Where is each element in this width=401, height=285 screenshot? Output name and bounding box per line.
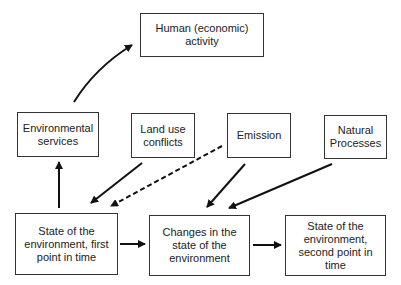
node-label: State of the environment, second point i… bbox=[288, 220, 383, 272]
node-emission: Emission bbox=[227, 113, 291, 158]
node-state-first: State of the environment, first point in… bbox=[15, 213, 118, 275]
node-label: Human (economic) activity bbox=[143, 22, 261, 48]
node-changes: Changes in the state of the environment bbox=[149, 215, 250, 276]
node-land-use-conflicts: Land use conflicts bbox=[131, 113, 195, 158]
node-label: Land use conflicts bbox=[134, 123, 192, 149]
arrow-services-to-human bbox=[74, 45, 132, 102]
node-environmental-services: Environmental services bbox=[17, 112, 99, 157]
node-label: Emission bbox=[237, 129, 282, 142]
node-label: Changes in the state of the environment bbox=[152, 226, 247, 265]
node-natural-processes: Natural Processes bbox=[324, 115, 387, 159]
node-label: State of the environment, first point in… bbox=[18, 225, 115, 264]
node-label: Environmental services bbox=[20, 122, 96, 148]
arrow-emission-to-changes bbox=[207, 164, 245, 207]
arrow-landuse-to-state bbox=[91, 163, 142, 203]
node-human-activity: Human (economic) activity bbox=[140, 13, 264, 57]
node-label: Natural Processes bbox=[327, 124, 384, 150]
arrow-natural-to-changes bbox=[229, 164, 332, 208]
node-state-second: State of the environment, second point i… bbox=[285, 215, 386, 276]
